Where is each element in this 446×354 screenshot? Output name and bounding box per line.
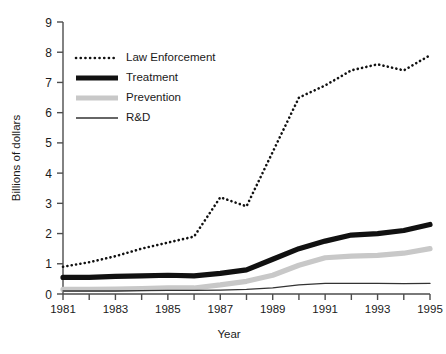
y-axis-tick-label: 6 bbox=[45, 106, 52, 120]
x-axis-tick-label: 1983 bbox=[103, 303, 129, 315]
y-axis-title: Billions of dollars bbox=[10, 115, 22, 202]
y-axis-tick-label: 3 bbox=[45, 197, 52, 211]
x-axis-tick-label: 1981 bbox=[50, 303, 76, 315]
legend-label: R&D bbox=[126, 111, 150, 123]
legend-label: Prevention bbox=[126, 91, 181, 103]
line-chart: 0123456789 19811983198519871989199119931… bbox=[0, 0, 446, 354]
y-axis-tick-label: 5 bbox=[45, 136, 52, 150]
y-axis-tick-label: 9 bbox=[45, 16, 52, 30]
chart-background bbox=[0, 0, 446, 354]
x-axis-tick-label: 1989 bbox=[260, 303, 286, 315]
y-axis-tick-label: 1 bbox=[45, 257, 52, 271]
y-axis-tick-label: 8 bbox=[45, 46, 52, 60]
x-axis-title: Year bbox=[217, 328, 240, 340]
y-axis-tick-label: 7 bbox=[45, 76, 52, 90]
y-axis-tick-label: 4 bbox=[45, 167, 52, 181]
x-axis-tick-label: 1995 bbox=[417, 303, 443, 315]
x-axis-tick-label: 1985 bbox=[155, 303, 181, 315]
x-axis-tick-label: 1987 bbox=[207, 303, 233, 315]
legend-label: Treatment bbox=[126, 71, 179, 83]
x-axis-tick-label: 1991 bbox=[312, 303, 338, 315]
x-axis-tick-label: 1993 bbox=[365, 303, 391, 315]
chart-canvas: 0123456789 19811983198519871989199119931… bbox=[0, 0, 446, 354]
legend-label: Law Enforcement bbox=[126, 51, 216, 63]
y-axis-tick-label: 0 bbox=[45, 288, 52, 302]
y-axis-tick-label: 2 bbox=[45, 227, 52, 241]
